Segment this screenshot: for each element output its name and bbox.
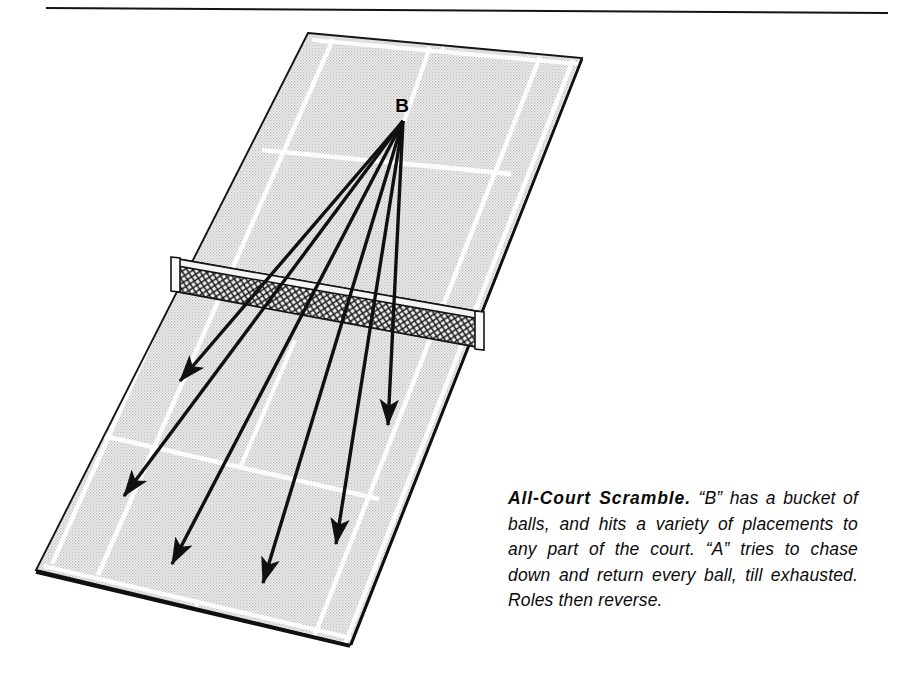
net-post-left — [171, 257, 180, 292]
net-post-right — [475, 311, 484, 350]
court-surface — [36, 33, 582, 645]
horizontal-rule — [46, 8, 888, 13]
caption-title: All-Court Scramble. — [508, 488, 691, 508]
tennis-court — [36, 33, 582, 646]
drill-caption: All-Court Scramble. “B” has a bucket of … — [508, 486, 858, 614]
page-root: B All-Court Scramble. “B” has a bucket o… — [0, 0, 910, 700]
player-label-b: B — [395, 95, 409, 116]
